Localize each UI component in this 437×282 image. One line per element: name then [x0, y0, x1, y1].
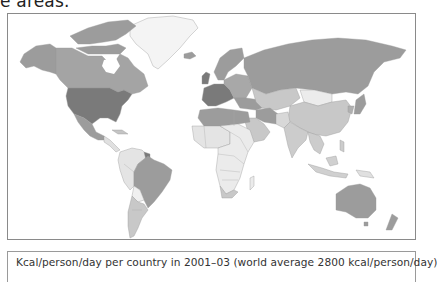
region-north-africa [198, 108, 250, 126]
region-central-america [104, 136, 120, 152]
region-borneo [326, 156, 338, 166]
region-tasmania [364, 222, 368, 226]
world-map [7, 13, 416, 240]
region-indonesia [308, 164, 348, 178]
region-new-zealand [386, 214, 398, 230]
region-cuba [112, 130, 128, 134]
world-map-svg [8, 14, 415, 239]
region-uk [202, 72, 210, 84]
region-greenland [130, 16, 198, 69]
region-madagascar [250, 176, 254, 190]
region-russia [244, 38, 406, 94]
page-text-fragment: e areas. [0, 0, 70, 11]
region-canada [56, 48, 148, 94]
region-australia [336, 184, 376, 218]
region-iceland [184, 52, 196, 59]
region-canada-arctic-2 [76, 44, 126, 54]
map-caption-box: Kcal/person/day per country in 2001–03 (… [7, 251, 416, 282]
region-japan [354, 94, 366, 114]
map-caption: Kcal/person/day per country in 2001–03 (… [16, 256, 437, 268]
region-usa [66, 88, 132, 124]
region-canada-arctic [70, 20, 136, 44]
region-new-guinea [356, 170, 374, 178]
region-philippines [340, 140, 344, 152]
region-west-africa [192, 126, 230, 148]
region-alaska [20, 44, 56, 74]
